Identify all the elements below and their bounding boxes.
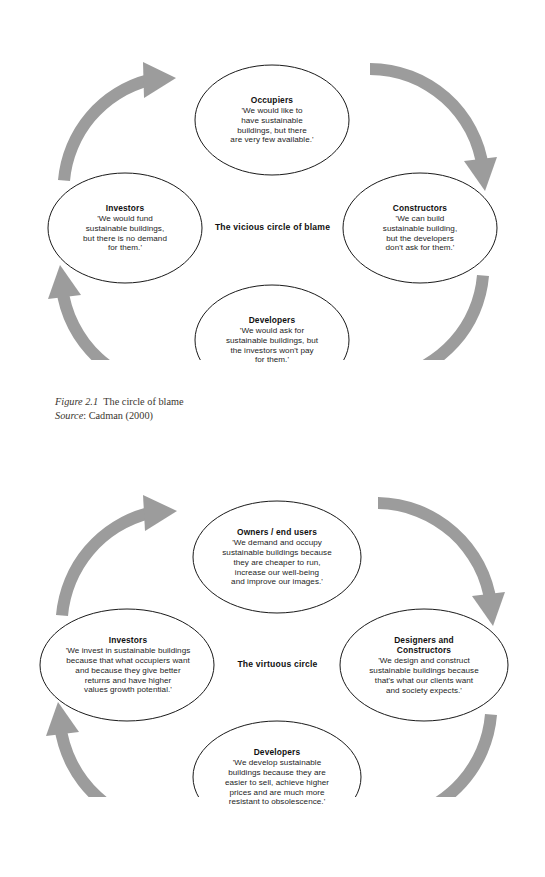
node-investors-title: Investors	[109, 635, 148, 645]
node-owners-end-users[interactable]: Owners / end users 'We demand and occupy…	[189, 501, 365, 613]
node-developers[interactable]: Developers 'We would ask for sustainable…	[195, 288, 349, 392]
arrow-top-to-right-icon	[370, 63, 497, 191]
node-designers-and-constructors-title: Designers and Constructors	[394, 635, 454, 656]
arrow-right-to-bottom-icon	[365, 275, 489, 360]
node-investors-title: Investors	[106, 203, 145, 213]
node-occupiers-quote: 'We would like to have sustainable build…	[230, 106, 313, 145]
node-investors[interactable]: Investors 'We would fund sustainable bui…	[48, 176, 202, 280]
arrow-top-to-right-icon	[378, 497, 505, 626]
diagram-1-center-label: The vicious circle of blame	[200, 222, 345, 232]
node-occupiers[interactable]: Occupiers 'We would like to have sustain…	[195, 68, 349, 172]
figure-1-title: The circle of blame	[103, 396, 183, 407]
node-constructors-quote: 'We can build sustainable building, but …	[383, 214, 457, 253]
node-investors[interactable]: Investors 'We invest in sustainable buil…	[38, 609, 218, 721]
node-developers-title: Developers	[254, 747, 301, 757]
node-designers-and-constructors-quote: 'We design and construct sustainable bui…	[369, 656, 478, 695]
node-developers-quote: 'We would ask for sustainable buildings,…	[226, 326, 318, 365]
node-designers-and-constructors[interactable]: Designers and Constructors 'We design an…	[336, 609, 512, 721]
node-occupiers-title: Occupiers	[251, 95, 293, 105]
node-developers[interactable]: Developers 'We develop sustainable build…	[189, 721, 365, 833]
node-developers-title: Developers	[249, 315, 296, 325]
figure-1-number: Figure 2.1	[55, 396, 98, 407]
arrow-left-to-top-icon	[56, 495, 177, 616]
node-owners-end-users-title: Owners / end users	[237, 527, 317, 537]
figure-1-source-label: Source	[55, 410, 83, 421]
figure-1-source-value: Cadman (2000)	[89, 410, 153, 421]
diagram-2-center-label: The virtuous circle	[205, 659, 350, 669]
node-owners-end-users-quote: 'We demand and occupy sustainable buildi…	[222, 538, 331, 587]
arrow-right-to-bottom-icon	[371, 714, 497, 797]
node-investors-quote: 'We invest in sustainable buildings beca…	[66, 646, 191, 695]
node-investors-quote: 'We would fund sustainable buildings, bu…	[83, 214, 167, 253]
node-constructors[interactable]: Constructors 'We can build sustainable b…	[343, 176, 497, 280]
node-developers-quote: 'We develop sustainable buildings becaus…	[225, 758, 329, 807]
figure-circle-of-blame: Occupiers 'We would like to have sustain…	[0, 0, 545, 440]
diagram-virtuous-circle: Owners / end users 'We demand and occupy…	[0, 437, 545, 797]
diagram-vicious-circle: Occupiers 'We would like to have sustain…	[0, 0, 545, 360]
figure-virtuous-circle: Owners / end users 'We demand and occupy…	[0, 437, 545, 877]
node-constructors-title: Constructors	[393, 203, 447, 213]
figure-1-caption: Figure 2.1 The circle of blame Source: C…	[55, 395, 184, 423]
arrow-left-to-top-icon	[58, 62, 176, 181]
